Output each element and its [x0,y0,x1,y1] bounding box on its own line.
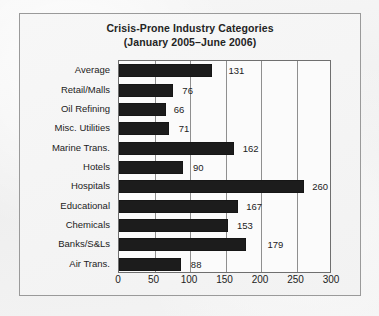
x-tick-label-50: 50 [148,274,159,285]
bar-row [119,216,330,235]
chart-title: Crisis-Prone Industry Categories [20,21,360,35]
category-label: Marine Trans. [52,137,110,156]
category-label: Hospitals [71,176,110,195]
bar [119,180,304,193]
category-axis-labels: AverageRetail/MallsOil RefiningMisc. Uti… [20,60,114,273]
x-tick-label-250: 250 [287,274,304,285]
chart-card: Crisis-Prone Industry Categories (Januar… [19,13,361,296]
bar-value-label: 66 [174,103,185,116]
bar [119,84,173,97]
bar-value-label: 162 [243,142,259,155]
bar-row [119,61,330,80]
x-tick-label-0: 0 [115,274,121,285]
bar [119,200,238,213]
bar-row [119,235,330,254]
category-label: Retail/Malls [61,79,110,98]
bar [119,122,169,135]
bar [119,238,246,251]
bar [119,103,166,116]
bar-value-label: 71 [179,122,190,135]
chart-subtitle: (January 2005–June 2006) [20,35,360,49]
category-label: Chemicals [66,215,110,234]
plot-area: 1317666711629026016715317988 [118,60,331,273]
bar [119,161,183,174]
bar-row [119,138,330,157]
bar-value-label: 179 [268,238,284,251]
x-tick-label-300: 300 [323,274,340,285]
bar [119,142,234,155]
bar-row [119,197,330,216]
bar-row [119,80,330,99]
x-tick-label-150: 150 [216,274,233,285]
category-label: Misc. Utilities [55,118,110,137]
bar-value-label: 167 [246,200,262,213]
bar-value-label: 90 [193,161,204,174]
bar-row [119,100,330,119]
bar-value-label: 131 [229,64,245,77]
bar [119,64,212,77]
plot-frame: 1317666711629026016715317988 [118,60,331,273]
x-tick-label-100: 100 [181,274,198,285]
bar-value-label: 76 [182,84,193,97]
category-label: Oil Refining [61,99,110,118]
x-tick-label-200: 200 [252,274,269,285]
chart-title-block: Crisis-Prone Industry Categories (Januar… [20,21,360,49]
category-label: Educational [60,196,110,215]
category-label: Hotels [83,157,110,176]
x-axis-tick-labels: 050100150200250300 [118,274,331,290]
bar-row [119,255,330,273]
bar [119,219,228,232]
category-label: Banks/S&Ls [58,234,110,253]
bar-row [119,119,330,138]
bar-row [119,158,330,177]
category-label: Average [75,60,110,79]
bar-row [119,177,330,196]
category-label: Air Trans. [69,254,110,273]
bar-value-label: 260 [312,180,328,193]
bar-value-label: 153 [237,219,253,232]
bar [119,258,181,271]
bar-value-label: 88 [191,258,202,271]
